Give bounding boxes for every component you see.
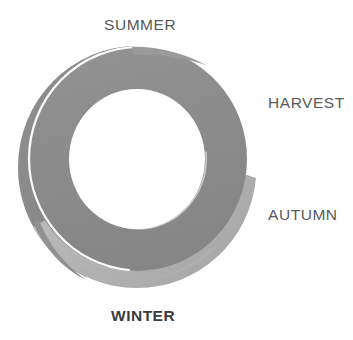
spiral-ring-graphic [0,0,353,340]
label-summer: SUMMER [104,17,176,33]
label-winter: WINTER [111,308,175,324]
label-harvest: HARVEST [268,95,345,111]
label-autumn: AUTUMN [268,207,338,223]
seasonal-cycle-diagram: SUMMER HARVEST AUTUMN WINTER [0,0,353,340]
ring-center-hole [70,90,204,228]
